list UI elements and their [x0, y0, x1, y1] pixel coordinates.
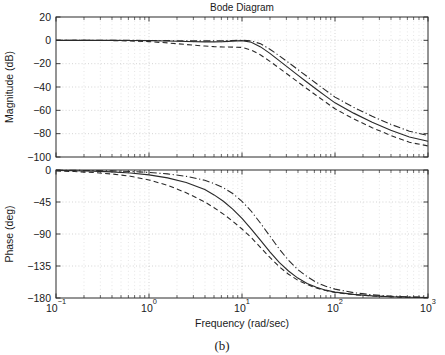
y-tick-label: 0	[45, 34, 51, 46]
y-tick-label: −80	[33, 127, 51, 139]
phase-y-tick-labels: 0−45−90−135−180	[27, 164, 51, 304]
x-tick-label: 102	[327, 296, 343, 314]
magnitude-panel: 200−20−40−60−80−100 Magnitude (dB)	[3, 11, 428, 163]
x-tick-label: 101	[234, 296, 250, 314]
phase-axis-label: Phase (deg)	[3, 205, 15, 262]
y-tick-label: −90	[33, 228, 51, 240]
bode-chart-canvas: Bode Diagram 200−20−40−60−80−100 Magnitu…	[0, 0, 445, 355]
y-tick-label: −40	[33, 81, 51, 93]
x-tick-label: 103	[420, 296, 436, 314]
chart-title: Bode Diagram	[210, 2, 274, 13]
magnitude-y-tick-labels: 200−20−40−60−80−100	[27, 11, 51, 163]
figure-caption: (b)	[214, 338, 229, 353]
y-tick-label: 0	[45, 164, 51, 176]
y-tick-label: 20	[39, 11, 51, 23]
frequency-tick-labels: 10−1100101102103	[46, 296, 436, 314]
y-tick-label: −60	[33, 104, 51, 116]
y-tick-label: −45	[33, 196, 51, 208]
x-tick-label: 100	[141, 296, 157, 314]
y-tick-label: −135	[27, 260, 51, 272]
frequency-axis-label: Frequency (rad/sec)	[195, 317, 289, 329]
bode-diagram-figure: Bode Diagram 200−20−40−60−80−100 Magnitu…	[0, 0, 445, 355]
phase-panel: 0−45−90−135−180 10−1100101102103 Phase (…	[3, 164, 436, 329]
magnitude-axis-label: Magnitude (dB)	[3, 51, 15, 123]
y-tick-label: −20	[33, 57, 51, 69]
y-tick-label: −100	[27, 151, 51, 163]
